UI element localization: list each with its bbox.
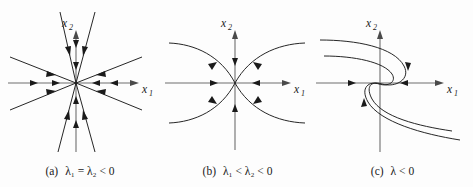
panel-b-stable-node: x 2 x 1	[155, 0, 320, 160]
curve-upper-left	[169, 43, 235, 83]
flow-arrow-up-outer	[73, 40, 79, 48]
x-axis-label-subscript: 1	[301, 89, 305, 98]
x-axis-label: x	[293, 83, 300, 95]
y-axis-label: x	[365, 17, 372, 29]
flow-arrow-right	[252, 80, 260, 86]
phase-portrait-figure: x 2 x 1	[0, 0, 473, 187]
flow-arrow-steep-ur	[82, 46, 88, 56]
flow-arrow-curve-ur	[253, 62, 262, 70]
ray-shallow-lower-right	[76, 83, 142, 110]
panel-a-star-node: x 2 x 1	[0, 0, 160, 160]
y-axis-arrowhead	[232, 30, 238, 39]
flow-arrow-down-inner	[73, 96, 79, 104]
flow-arrow-steep-ll	[64, 110, 70, 120]
y-axis-arrowhead	[377, 30, 383, 39]
x-axis-label-subscript: 1	[454, 89, 458, 98]
flow-arrow-left-outer	[30, 80, 38, 86]
caption-c-expression: λ < 0	[391, 165, 415, 177]
flow-arrow-down-outer	[73, 120, 79, 128]
caption-c-tag: (c)	[371, 165, 384, 177]
ray-shallow-lower-left	[10, 83, 76, 110]
y-axis-label: x	[220, 17, 227, 29]
trajectory-inner	[324, 56, 452, 131]
x-axis-label: x	[446, 83, 453, 95]
flow-arrow-curve-lr	[253, 96, 262, 104]
trajectory-outer	[320, 40, 460, 140]
flow-arrow-up-inner	[73, 62, 79, 70]
flow-arrow-right-outer	[110, 80, 118, 86]
ray-shallow-upper-right	[76, 57, 142, 83]
caption-a-tag: (a)	[45, 165, 58, 177]
flow-arrow-up	[232, 58, 238, 66]
flow-arrow-steep-lr	[82, 110, 88, 120]
caption-a-expression: λ₁ = λ₂ < 0	[65, 165, 114, 177]
caption-c: (c)λ < 0	[312, 160, 473, 187]
flow-arrow-down	[232, 104, 238, 112]
flow-arrow-shallow-ur	[96, 71, 106, 77]
x-axis-label: x	[141, 83, 148, 95]
flow-arrow-curve-ll	[208, 96, 217, 104]
panel-b-diagram: x 2 x 1	[155, 0, 320, 160]
y-axis-label-subscript: 2	[69, 23, 73, 32]
caption-a: (a)λ₁ = λ₂ < 0	[0, 160, 160, 187]
x-axis-label-subscript: 1	[149, 89, 153, 98]
curve-upper-right	[235, 43, 305, 83]
flow-arrow-left-inner	[52, 80, 60, 86]
y-axis-label-subscript: 2	[373, 23, 377, 32]
flow-arrow-shallow-ul	[46, 71, 56, 77]
caption-b: (b)λ₁ < λ₂ < 0	[155, 160, 320, 187]
y-axis-label: x	[61, 17, 68, 29]
curve-lower-left	[169, 83, 235, 123]
ray-shallow-upper-left	[10, 57, 76, 83]
flow-arrow-left	[210, 80, 218, 86]
x-axis-arrowhead	[130, 80, 139, 86]
panel-a-diagram: x 2 x 1	[0, 0, 160, 160]
y-axis-arrowhead	[73, 30, 79, 39]
panel-c-diagram: x 2 x 1	[312, 0, 473, 160]
flow-arrow-left	[348, 80, 356, 86]
flow-arrow-curve-ul	[208, 62, 217, 70]
x-axis-arrowhead	[435, 80, 444, 86]
flow-arrow-right-inner	[92, 80, 100, 86]
x-axis-arrowhead	[282, 80, 291, 86]
panel-c-degenerate-node: x 2 x 1	[312, 0, 473, 160]
caption-b-tag: (b)	[203, 165, 216, 177]
caption-b-expression: λ₁ < λ₂ < 0	[223, 165, 272, 177]
y-axis-label-subscript: 2	[228, 23, 232, 32]
flow-arrow-steep-ul	[65, 46, 71, 56]
